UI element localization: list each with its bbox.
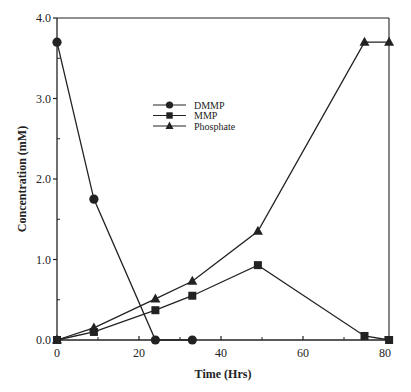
y-tick-label: 1.0 [36,253,51,267]
y-tick-label: 0.0 [36,333,51,347]
legend-marker-circle [166,101,173,108]
legend-item-mmp: MMP [153,110,218,121]
phosphate-line [57,42,389,340]
x-tick-label: 20 [133,346,145,360]
mmp-point [385,336,393,344]
legend-item-dmmp: DMMP [153,100,225,111]
axes: 0.01.02.03.04.0020406080 [36,11,391,360]
phosphate-point [187,276,197,285]
series-phosphate [52,37,394,344]
y-tick-label: 4.0 [36,11,51,25]
x-tick-label: 0 [54,346,60,360]
series-mmp [53,261,393,344]
mmp-line [57,265,389,340]
dmmp-line [57,42,192,340]
legend-label: Phosphate [194,121,236,132]
phosphate-point [360,37,370,46]
mmp-point [151,306,159,314]
legend-marker-triangle [166,122,174,130]
dmmp-point [151,335,160,344]
legend: DMMPMMPPhosphate [153,100,236,132]
y-axis-title: Concentration (mM) [15,126,29,232]
mmp-point [254,261,262,269]
legend-item-phosphate: Phosphate [153,121,236,132]
legend-label: DMMP [194,100,225,111]
y-tick-label: 3.0 [36,92,51,106]
dmmp-point [89,195,98,204]
legend-marker-square [166,112,172,118]
x-tick-label: 40 [215,346,227,360]
concentration-time-chart: 0.01.02.03.04.0020406080 DMMPMMPPhosphat… [0,0,411,392]
phosphate-point [253,226,263,235]
legend-label: MMP [194,110,218,121]
y-tick-label: 2.0 [36,172,51,186]
phosphate-point [384,37,394,46]
x-tick-label: 60 [297,346,309,360]
dmmp-point [188,335,197,344]
series-dmmp [52,38,197,345]
x-axis-title: Time (Hrs) [195,367,252,381]
mmp-point [188,292,196,300]
dmmp-point [52,38,61,47]
mmp-point [361,332,369,340]
x-tick-label: 80 [379,346,391,360]
series-group [52,37,394,345]
